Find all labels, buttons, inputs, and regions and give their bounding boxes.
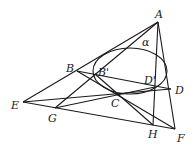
point-label-C: C: [111, 97, 120, 110]
point-label-G: G: [48, 112, 57, 125]
point-label-B-prime: B': [97, 66, 109, 79]
point-label-D-prime: D': [143, 74, 156, 87]
conic-label: α: [142, 36, 150, 49]
point-label-A: A: [154, 8, 163, 21]
segment-A-E: [23, 22, 158, 102]
geometry-diagram: α ABB'CD'DEGHF: [0, 0, 196, 152]
point-label-F: F: [176, 132, 185, 145]
point-label-D: D: [174, 84, 184, 97]
point-label-B: B: [65, 62, 74, 75]
point-label-H: H: [147, 128, 158, 141]
point-label-E: E: [10, 99, 19, 112]
